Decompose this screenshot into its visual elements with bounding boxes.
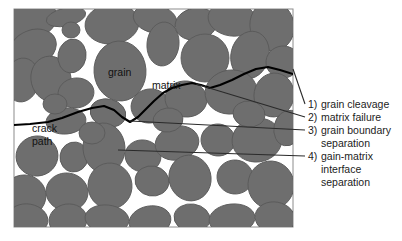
legend-item-label: separation xyxy=(321,176,370,188)
legend-item-label: grain cleavage xyxy=(321,98,389,110)
grain-particle xyxy=(79,122,105,144)
legend-item-label: gain-matrix xyxy=(321,150,374,162)
legend-item-index: 1) xyxy=(308,98,317,110)
legend-item-index: 2) xyxy=(308,111,317,123)
label-grain: grain xyxy=(108,66,132,78)
label-crack-path-line2: path xyxy=(32,135,53,147)
label-matrix: matrix xyxy=(152,79,181,91)
legend-item-label: interface xyxy=(321,163,361,175)
legend-item-index: 3) xyxy=(308,124,317,136)
grain-particle xyxy=(62,22,80,38)
legend-item-1: 1)grain cleavage xyxy=(308,98,389,110)
label-crack-path-line1: crack xyxy=(32,122,58,134)
legend-item-label: matrix failure xyxy=(321,111,381,123)
microstructure-diagram: grainmatrixcrackpath 1)grain cleavage2)m… xyxy=(0,0,402,241)
legend-item-label: grain boundary xyxy=(321,124,392,136)
figure-root: grainmatrixcrackpath 1)grain cleavage2)m… xyxy=(0,0,402,241)
legend-item-label: separation xyxy=(321,137,370,149)
grain-particle xyxy=(43,94,67,114)
legend-item-index: 4) xyxy=(308,150,317,162)
